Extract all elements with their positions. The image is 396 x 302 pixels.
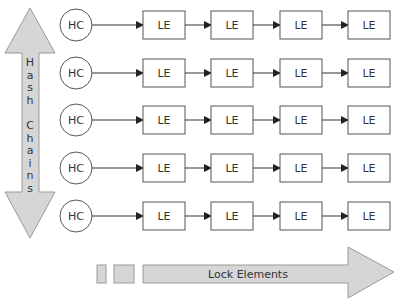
lock-element-label: LE: [294, 67, 307, 80]
lock-element-label: LE: [157, 19, 170, 32]
hash-chains-letter: h: [27, 132, 34, 145]
lock-element-label: LE: [225, 162, 238, 175]
hash-chains-letter: a: [27, 144, 34, 157]
lock-elements-arrow: Lock Elements: [97, 247, 394, 298]
hash-chains-letter: H: [26, 56, 34, 69]
hash-chains-letter: i: [28, 157, 31, 170]
lock-element-label: LE: [294, 114, 307, 127]
lock-element-label: LE: [294, 210, 307, 223]
hash-chains-letter: s: [27, 182, 33, 195]
lock-element-label: LE: [225, 19, 238, 32]
hash-chain-row: HCLELELELE: [60, 152, 390, 184]
hash-chains-letter: h: [27, 94, 34, 107]
lock-element-label: LE: [294, 19, 307, 32]
hash-chains-letter: s: [27, 81, 33, 94]
lock-elements-label: Lock Elements: [208, 268, 288, 281]
lock-element-label: LE: [225, 210, 238, 223]
hash-chain-head-label: HC: [68, 114, 84, 127]
hash-chains-letter: a: [27, 69, 34, 82]
hash-chain-row: HCLELELELE: [60, 9, 390, 41]
lock-element-label: LE: [294, 162, 307, 175]
lock-element-label: LE: [362, 19, 375, 32]
lock-element-label: LE: [157, 67, 170, 80]
lock-element-label: LE: [225, 114, 238, 127]
hash-chain-row: HCLELELELE: [60, 200, 390, 232]
hash-chain-head-label: HC: [68, 162, 84, 175]
lock-element-label: LE: [362, 114, 375, 127]
lock-element-label: LE: [225, 67, 238, 80]
hash-chain-head-label: HC: [68, 67, 84, 80]
hash-chains-label: HashChains: [26, 56, 34, 195]
lock-element-label: LE: [362, 67, 375, 80]
lock-element-label: LE: [157, 210, 170, 223]
lock-element-label: LE: [157, 114, 170, 127]
lock-element-label: LE: [157, 162, 170, 175]
lock-element-label: LE: [362, 210, 375, 223]
hash-chains-letter: C: [26, 119, 34, 132]
hash-chain-diagram: HashChains HCLELELELEHCLELELELEHCLELELEL…: [0, 0, 396, 302]
hash-chain-row: HCLELELELE: [60, 57, 390, 89]
hash-chains-letter: n: [27, 169, 34, 182]
hash-chain-row: HCLELELELE: [60, 104, 390, 136]
lock-element-label: LE: [362, 162, 375, 175]
hash-chain-head-label: HC: [68, 210, 84, 223]
hash-chain-head-label: HC: [68, 19, 84, 32]
